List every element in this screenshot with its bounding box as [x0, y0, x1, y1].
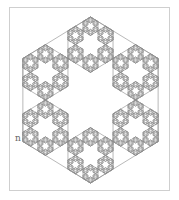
hex-cell: [51, 92, 53, 94]
hex-cell: [86, 58, 88, 60]
hex-cell: [101, 36, 103, 38]
hex-cell: [66, 58, 68, 60]
hex-cell: [71, 166, 73, 168]
hex-cell: [86, 138, 88, 140]
hex-cell: [96, 64, 98, 66]
hexaflake-fractal: [0, 0, 179, 200]
hex-cell: [126, 64, 128, 66]
hex-cell: [156, 76, 158, 78]
hex-cell: [156, 132, 158, 134]
hex-cell: [106, 27, 108, 29]
hex-cell: [36, 132, 38, 134]
hex-cell: [61, 110, 63, 112]
hex-cell: [76, 27, 78, 29]
hex-cell: [71, 55, 73, 57]
hex-cell: [61, 73, 63, 75]
hex-cell: [76, 156, 78, 158]
hex-cell: [41, 49, 43, 51]
hex-cell: [41, 110, 43, 112]
hex-cell: [116, 83, 118, 85]
hex-cell: [51, 49, 53, 51]
hex-cell: [111, 159, 113, 161]
hex-cell: [141, 49, 143, 51]
hex-cell: [41, 104, 43, 106]
hex-cell: [71, 159, 73, 161]
hex-cell: [101, 147, 103, 149]
hex-cell: [26, 83, 28, 85]
hex-cell: [46, 83, 48, 85]
hex-cell: [146, 132, 148, 134]
hex-cell: [141, 92, 143, 94]
hex-cell: [116, 76, 118, 78]
hex-cell: [81, 141, 83, 143]
hex-cell: [86, 169, 88, 171]
hex-cell: [66, 113, 68, 115]
hexaflake-lines: [23, 17, 158, 183]
hex-cell: [131, 49, 133, 51]
hex-cell: [146, 64, 148, 66]
hex-cell: [141, 110, 143, 112]
hex-cell: [146, 76, 148, 78]
hex-cell: [86, 175, 88, 177]
hex-cell: [56, 119, 58, 121]
hex-cell: [126, 119, 128, 121]
hex-cell: [26, 138, 28, 140]
hex-cell: [71, 147, 73, 149]
hex-cell: [151, 73, 153, 75]
hex-cell: [71, 141, 73, 143]
hex-cell: [111, 30, 113, 32]
hex-outline: [68, 128, 113, 183]
hex-cell: [46, 46, 48, 48]
hex-cell: [31, 73, 33, 75]
hex-outline: [23, 100, 68, 155]
hex-cell: [96, 21, 98, 23]
hex-cell: [66, 132, 68, 134]
hex-cell: [101, 55, 103, 57]
hex-cell: [61, 129, 63, 131]
hex-cell: [61, 55, 63, 57]
hex-cell: [51, 55, 53, 57]
hex-cell: [156, 58, 158, 60]
hex-cell: [131, 104, 133, 106]
hex-cell: [106, 46, 108, 48]
hex-cell: [106, 156, 108, 158]
hex-cell: [96, 138, 98, 140]
hex-outline: [113, 100, 158, 155]
figure-label: n: [15, 134, 21, 143]
hex-cell: [81, 49, 83, 51]
hex-cell: [136, 138, 138, 140]
hex-cell: [151, 110, 153, 112]
hex-cell: [26, 132, 28, 134]
hex-cell: [101, 159, 103, 161]
hex-cell: [101, 30, 103, 32]
hex-cell: [51, 147, 53, 149]
hex-outline: [113, 45, 158, 100]
hex-cell: [96, 27, 98, 29]
hex-cell: [66, 119, 68, 121]
hex-cell: [126, 113, 128, 115]
hex-outline: [23, 45, 68, 100]
hex-cell: [81, 30, 83, 32]
hex-cell: [76, 46, 78, 48]
hex-cell: [146, 58, 148, 60]
hex-cell: [66, 83, 68, 85]
hex-cell: [111, 36, 113, 38]
hex-outline: [68, 17, 113, 72]
hex-cell: [101, 166, 103, 168]
hex-cell: [111, 147, 113, 149]
hex-cell: [136, 46, 138, 48]
hex-cell: [36, 113, 38, 115]
hex-cell: [116, 58, 118, 60]
hex-cell: [146, 138, 148, 140]
hex-cell: [116, 132, 118, 134]
hex-cell: [126, 132, 128, 134]
hex-cell: [41, 92, 43, 94]
hex-cell: [26, 58, 28, 60]
hex-cell: [26, 113, 28, 115]
hex-cell: [46, 138, 48, 140]
hex-cell: [101, 141, 103, 143]
hex-cell: [26, 76, 28, 78]
hex-cell: [81, 159, 83, 161]
hex-cell: [121, 55, 123, 57]
hex-cell: [116, 113, 118, 115]
